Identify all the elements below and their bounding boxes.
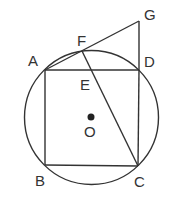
label-e: E — [80, 76, 90, 93]
segment-ag — [45, 21, 139, 70]
label-b: B — [35, 172, 45, 189]
label-d: D — [144, 53, 155, 70]
segment-bc — [45, 165, 138, 166]
geometry-diagram: A F G D E O B C — [0, 0, 175, 211]
label-c: C — [134, 173, 145, 190]
label-a: A — [28, 52, 38, 69]
segment-dc — [138, 70, 139, 166]
label-o: O — [84, 123, 96, 140]
label-g: G — [144, 6, 156, 23]
label-f: F — [77, 32, 86, 49]
center-point-o — [88, 114, 95, 121]
segment-fc — [82, 51, 138, 166]
